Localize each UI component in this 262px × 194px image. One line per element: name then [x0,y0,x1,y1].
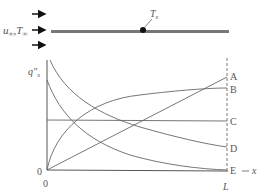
x-axis-label: x [251,165,257,176]
curve-label-a: A [230,71,238,82]
curve-label-d: D [230,143,237,154]
y-axis-label: q″s [28,66,40,79]
curve-c [47,120,227,121]
flat-plate [51,30,229,33]
leader-line [144,19,152,28]
origin-y-label: 0 [37,166,42,177]
curve-d [50,60,227,147]
origin-x-label: 0 [43,178,48,189]
curve-label-c: C [230,116,237,127]
flow-label: u∞,T∞ [3,24,27,38]
curve-label-e: E [230,165,236,176]
curves [47,60,227,170]
surface-temp-label: Ts [150,8,159,21]
length-label: L [222,181,229,192]
curve-label-b: B [230,84,237,95]
heat-flux-diagram: u∞,T∞ Ts q″s A B C D E x 0 0 L [0,0,262,194]
flow-arrows [32,14,45,45]
x-axis [47,170,228,171]
curve-a [47,77,227,170]
curve-b [47,88,227,170]
surface-point-marker [140,27,146,33]
